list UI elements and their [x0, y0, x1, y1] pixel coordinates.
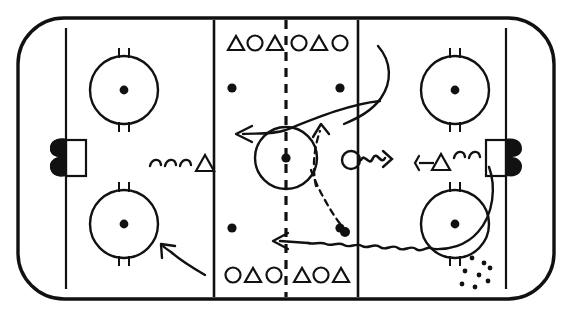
player-symbol-triangle — [311, 36, 327, 50]
path-dashed-pass-up — [313, 124, 329, 186]
player-symbol-circle — [248, 36, 263, 51]
player-symbol-circle — [267, 268, 282, 283]
faceoff-dot — [120, 220, 129, 229]
goal-post-mass-left — [50, 139, 66, 177]
faceoff-circle-bottom-right — [421, 182, 489, 266]
snow-dot — [488, 266, 493, 271]
center-ice-dot — [281, 153, 290, 162]
puck-carry-wavy-line — [308, 243, 433, 251]
snow-dot — [482, 261, 487, 266]
goal-post-mass-right — [506, 139, 522, 177]
shot-wavy-line — [361, 156, 385, 162]
puck-carry-straight-line — [280, 241, 308, 243]
faceoff-circle-bottom-left — [90, 182, 158, 266]
queue-top-left — [228, 36, 283, 51]
player-symbol-circle — [314, 268, 329, 283]
boards-curl-line — [344, 46, 389, 124]
snow-dot — [473, 285, 478, 290]
player-symbol-circle — [333, 36, 348, 51]
queue-bottom-left — [226, 268, 282, 283]
faceoff-dot — [120, 86, 129, 95]
player-symbol-triangle — [432, 154, 450, 170]
curl-route-line — [163, 246, 205, 275]
neutral-dot-top-left — [227, 83, 236, 92]
faceoff-circle-top-right — [421, 48, 489, 132]
player-left-triangle — [196, 155, 214, 171]
player-symbol-circle — [226, 268, 241, 283]
snow-dot — [463, 269, 468, 274]
path-curl-upper-right-boards — [344, 46, 389, 124]
queue-top-right — [292, 36, 348, 51]
rink-canvas — [0, 0, 572, 317]
puck-squiggle-right — [454, 152, 480, 158]
stick-blade — [415, 156, 419, 170]
player-symbol-triangle — [245, 268, 261, 282]
hockey-rink-diagram — [0, 0, 572, 317]
snow-dot — [486, 279, 491, 284]
player-symbol-triangle — [196, 155, 214, 171]
puck-squiggle-left — [150, 160, 191, 166]
faceoff-dot — [451, 220, 460, 229]
squiggle-mark — [180, 160, 191, 166]
dashed-pass-line-down — [311, 170, 344, 229]
player-symbol-triangle — [333, 268, 349, 282]
goal-frame-left — [66, 140, 86, 176]
snow-spray-marks — [460, 256, 493, 290]
squiggle-mark — [454, 152, 465, 158]
shot-squiggle-right — [361, 151, 392, 167]
snow-dot — [477, 273, 482, 278]
neutral-dot-bottom-left — [227, 223, 236, 232]
path-curl-lower-left — [161, 244, 205, 275]
snow-dot — [470, 256, 475, 261]
snow-dot — [460, 282, 465, 287]
player-symbol-triangle — [228, 36, 244, 50]
squiggle-mark — [150, 160, 161, 166]
squiggle-mark — [165, 160, 176, 166]
player-right-triangle — [415, 154, 450, 170]
player-symbol-triangle — [294, 268, 310, 282]
queue-bottom-right — [294, 268, 349, 283]
squiggle-mark — [469, 152, 480, 158]
puck-dashed-pass-end — [340, 227, 350, 237]
player-symbol-circle — [292, 36, 307, 51]
player-symbol-triangle — [267, 36, 283, 50]
faceoff-circle-top-left — [90, 48, 158, 132]
faceoff-dot — [451, 86, 460, 95]
path-puck-carry-lower-right — [273, 167, 493, 250]
goal-net-left — [50, 139, 86, 177]
neutral-dot-top-right — [335, 83, 344, 92]
